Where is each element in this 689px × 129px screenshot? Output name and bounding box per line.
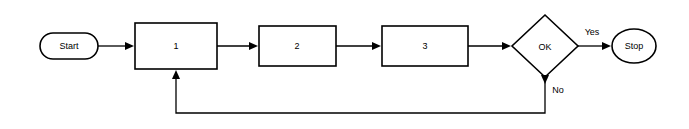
decision-label: OK	[538, 42, 551, 52]
start-label: Start	[59, 41, 79, 51]
edge-arrowhead-down	[541, 75, 549, 84]
edge-line	[176, 77, 545, 113]
edge-decision-to-step1: No	[172, 70, 564, 113]
node-step1: 1	[135, 23, 217, 69]
node-step2: 2	[259, 26, 336, 66]
edge-arrowhead	[372, 42, 381, 50]
step3-label: 3	[422, 41, 427, 51]
edge-step1-to-step2	[217, 42, 258, 50]
node-start: Start	[40, 33, 98, 59]
step1-label: 1	[173, 41, 178, 51]
node-stop: Stop	[612, 29, 656, 63]
edge-step3-to-decision	[468, 42, 511, 50]
edge-label-no: No	[552, 85, 564, 95]
flowchart-diagram: Start 1 2 3	[0, 0, 689, 129]
stop-label: Stop	[625, 41, 644, 51]
node-decision: OK	[512, 15, 578, 77]
edge-arrowhead	[125, 42, 134, 50]
edge-start-to-step1	[98, 42, 134, 50]
step2-label: 2	[294, 41, 299, 51]
edge-arrowhead	[249, 42, 258, 50]
edge-arrowhead	[602, 42, 611, 50]
edge-arrowhead	[172, 70, 180, 79]
edge-arrowhead	[502, 42, 511, 50]
flowchart-svg: Start 1 2 3	[0, 0, 689, 129]
edge-step2-to-step3	[336, 42, 381, 50]
edge-label-yes: Yes	[585, 27, 600, 37]
node-step3: 3	[382, 26, 468, 66]
edge-decision-to-stop: Yes	[578, 27, 611, 50]
